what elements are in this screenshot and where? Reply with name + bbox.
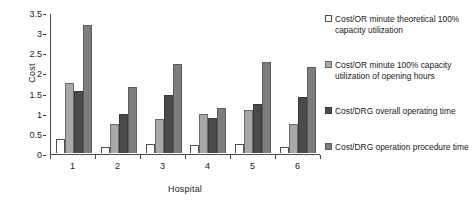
legend-label: Cost/DRG overall operating time bbox=[335, 106, 456, 117]
bar bbox=[199, 114, 208, 153]
y-tick-mark bbox=[43, 95, 46, 96]
x-tick-mark bbox=[185, 155, 186, 159]
bar bbox=[289, 124, 298, 153]
plot-area bbox=[50, 14, 320, 155]
x-tick-mark bbox=[230, 155, 231, 159]
bar bbox=[74, 91, 83, 153]
x-tick-mark bbox=[320, 155, 321, 159]
y-tick-mark bbox=[43, 115, 46, 116]
x-axis-title: Hospital bbox=[50, 184, 320, 194]
bar bbox=[101, 147, 110, 153]
bar-group bbox=[52, 14, 97, 153]
bar bbox=[190, 145, 199, 153]
x-tick-label: 4 bbox=[185, 161, 230, 171]
y-tick-mark bbox=[43, 14, 46, 15]
legend-swatch-icon bbox=[325, 15, 332, 22]
y-tick-label: 3 bbox=[37, 30, 42, 39]
y-tick-mark bbox=[43, 135, 46, 136]
bar-group bbox=[97, 14, 142, 153]
legend-label: Cost/OR minute theoretical 100% capacity… bbox=[335, 14, 471, 35]
legend-entry[interactable]: Cost/DRG overall operating time bbox=[325, 106, 471, 117]
y-tick-label: 1.5 bbox=[29, 90, 42, 99]
bar bbox=[164, 95, 173, 153]
bar-chart-figure: Cost 00.511.522.533.5 123456 Hospital Co… bbox=[0, 0, 473, 210]
bar bbox=[119, 114, 128, 153]
legend-swatch-icon bbox=[325, 61, 332, 68]
bar-groups bbox=[52, 14, 320, 153]
bar bbox=[65, 83, 74, 154]
x-axis-labels: 123456 bbox=[50, 161, 320, 171]
bar bbox=[56, 139, 65, 153]
bar bbox=[235, 144, 244, 153]
bar bbox=[146, 144, 155, 153]
x-tick-label: 5 bbox=[230, 161, 275, 171]
legend-label: Cost/DRG operation procedure time bbox=[335, 142, 469, 153]
y-tick-label: 2.5 bbox=[29, 50, 42, 59]
x-tick-label: 3 bbox=[140, 161, 185, 171]
y-tick-mark bbox=[43, 155, 46, 156]
bar bbox=[173, 64, 182, 153]
legend-label: Cost/OR minute 100% capacity utilization… bbox=[335, 60, 471, 81]
x-tick-label: 6 bbox=[275, 161, 320, 171]
x-tick-mark bbox=[95, 155, 96, 159]
bar-group bbox=[231, 14, 276, 153]
legend-swatch-icon bbox=[325, 143, 332, 150]
x-axis-ticks bbox=[50, 155, 320, 160]
y-tick-mark bbox=[43, 54, 46, 55]
y-axis-ticks: 00.511.522.533.5 bbox=[20, 14, 46, 155]
y-tick-label: 0 bbox=[37, 151, 42, 160]
bar bbox=[110, 124, 119, 153]
bar bbox=[298, 97, 307, 153]
y-tick-mark bbox=[43, 34, 46, 35]
y-tick-label: 3.5 bbox=[29, 10, 42, 19]
x-tick-mark bbox=[275, 155, 276, 159]
bar bbox=[244, 110, 253, 154]
bar-group bbox=[186, 14, 231, 153]
bar bbox=[253, 104, 262, 153]
legend-entry[interactable]: Cost/OR minute 100% capacity utilization… bbox=[325, 60, 471, 81]
legend-swatch-icon bbox=[325, 107, 332, 114]
x-tick-mark bbox=[140, 155, 141, 159]
bar bbox=[155, 119, 164, 153]
y-tick-label: 0.5 bbox=[29, 130, 42, 139]
legend-entry[interactable]: Cost/DRG operation procedure time bbox=[325, 142, 471, 153]
bar bbox=[307, 67, 316, 153]
bar bbox=[262, 62, 271, 153]
bar bbox=[280, 147, 289, 153]
x-tick-label: 1 bbox=[50, 161, 95, 171]
bar-group bbox=[275, 14, 320, 153]
legend-entry[interactable]: Cost/OR minute theoretical 100% capacity… bbox=[325, 14, 471, 35]
bar bbox=[217, 108, 226, 153]
y-tick-label: 2 bbox=[37, 70, 42, 79]
bar bbox=[208, 118, 217, 153]
bar-group bbox=[141, 14, 186, 153]
y-tick-label: 1 bbox=[37, 110, 42, 119]
y-tick-mark bbox=[43, 74, 46, 75]
x-tick-mark bbox=[50, 155, 51, 159]
bar bbox=[128, 87, 137, 153]
bar bbox=[83, 25, 92, 153]
x-tick-label: 2 bbox=[95, 161, 140, 171]
